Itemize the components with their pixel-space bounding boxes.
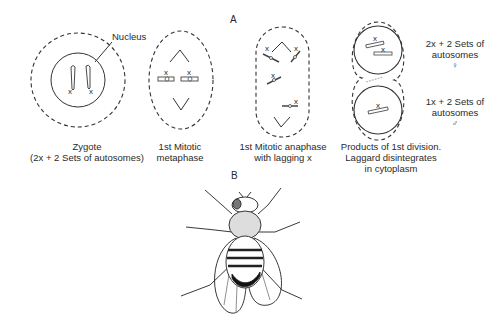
zygote-cell: [31, 33, 125, 127]
abdomen: [226, 236, 264, 288]
x-chromosome-mark: x: [376, 100, 380, 111]
x-chromosome-mark: x: [381, 44, 385, 55]
male-symbol-icon: ♂: [410, 118, 500, 129]
zygote-caption: Zygote (2x + 2 Sets of autosomes): [22, 141, 152, 163]
caption-line: 1st Mitotic anaphase: [228, 141, 338, 152]
leg: [258, 188, 281, 214]
caption-line: 1st Mitotic: [148, 141, 212, 152]
nucleus-pointer: [95, 42, 112, 62]
caption-line: with lagging x: [228, 152, 338, 163]
products-caption: Products of 1st division. Laggard disint…: [336, 141, 446, 174]
disintegrating-laggard: [366, 77, 383, 82]
caption-line: (2x + 2 Sets of autosomes): [22, 152, 152, 163]
x-chromosome-mark: x: [373, 33, 377, 44]
caption-line: Products of 1st division.: [336, 141, 446, 152]
leg: [205, 190, 232, 214]
x-chromosome-mark: x: [271, 70, 275, 81]
caption-line: Zygote: [22, 141, 152, 152]
male-cell-label: 1x + 2 Sets of autosomes ♂: [410, 96, 500, 129]
metaphase-cell: [149, 31, 213, 129]
nucleus-label: Nucleus: [112, 31, 146, 42]
label-line: 2x + 2 Sets of: [410, 38, 500, 49]
cell-membrane: [352, 22, 404, 140]
thorax: [229, 211, 261, 239]
spindle-pole: [170, 50, 189, 62]
leg: [258, 222, 300, 232]
fruit-fly-illustration: [181, 188, 302, 313]
nucleus: [51, 53, 105, 107]
x-chromosome-mark: x: [68, 86, 72, 97]
label-line: 1x + 2 Sets of: [410, 96, 500, 107]
x-chromosome-mark: x: [164, 67, 168, 78]
spindle-pole: [173, 98, 189, 110]
cell-membrane: [256, 27, 309, 137]
spindle-pole: [272, 42, 291, 52]
x-chromosome-mark: x: [265, 43, 269, 54]
panel-b-label: B: [231, 170, 238, 181]
female-symbol-icon: ♀: [410, 60, 500, 71]
x-chromosome-mark: x: [89, 86, 93, 97]
x-chromosome-mark: x: [294, 43, 298, 54]
label-line: autosomes: [410, 107, 500, 118]
eye: [233, 199, 241, 209]
spindle-pole: [274, 117, 290, 127]
anaphase-caption: 1st Mitotic anaphase with lagging x: [228, 141, 338, 163]
products-cell: [352, 22, 404, 140]
leg: [186, 227, 232, 232]
caption-line: Laggard disintegrates: [336, 152, 446, 163]
anaphase-cell: [256, 27, 309, 137]
caption-line: metaphase: [148, 152, 212, 163]
label-line: autosomes: [410, 49, 500, 60]
cell-membrane: [31, 33, 125, 127]
x-chromosome-mark: x: [187, 67, 191, 78]
female-cell-label: 2x + 2 Sets of autosomes ♀: [410, 38, 500, 71]
x-chromosome-mark: x: [294, 96, 298, 107]
female-nucleus: [354, 26, 402, 74]
caption-line: in cytoplasm: [336, 163, 446, 174]
metaphase-caption: 1st Mitotic metaphase: [148, 141, 212, 163]
